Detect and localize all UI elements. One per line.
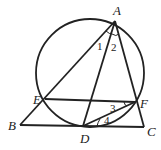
- segment-AB: [20, 21, 115, 125]
- angle-label-4: 4: [104, 114, 110, 126]
- label-A: A: [112, 3, 121, 18]
- segment-BC: [20, 125, 144, 127]
- angle-label-3: 3: [110, 102, 116, 114]
- circumcircle: [36, 19, 144, 127]
- angle-label-1: 1: [97, 40, 103, 52]
- geometry-diagram: A B C D E F 1 2 3 4: [0, 0, 161, 150]
- label-D: D: [79, 131, 90, 146]
- label-C: C: [147, 124, 156, 139]
- label-E: E: [32, 92, 41, 107]
- angle-label-2: 2: [111, 41, 117, 53]
- label-F: F: [139, 96, 149, 111]
- label-B: B: [8, 118, 16, 133]
